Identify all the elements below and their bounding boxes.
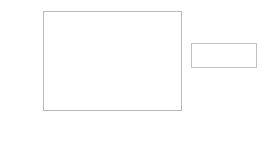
legend-swatch-icon: [195, 49, 199, 53]
legend-swatch-icon: [195, 59, 199, 63]
x-axis-tick-labels: [43, 113, 182, 129]
bar-group: [44, 12, 181, 110]
plot-area: [43, 11, 182, 111]
legend-item: [195, 48, 253, 53]
y-axis-tick-labels: [17, 11, 43, 111]
chart-legend: [191, 43, 257, 68]
legend-item: [195, 58, 253, 63]
voter-turnout-bar-chart: [0, 0, 262, 152]
